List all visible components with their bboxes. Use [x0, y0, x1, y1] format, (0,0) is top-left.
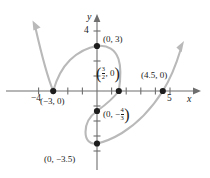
label-close-paren: ): [115, 68, 120, 81]
y-tick-label-4: 4: [84, 26, 89, 36]
label-close-paren-frac: ): [124, 109, 129, 122]
fraction-numerator: 4: [121, 107, 124, 114]
point-x-intercept-three-halves: [116, 88, 122, 94]
fraction-denominator: 3: [121, 114, 124, 122]
point-y-intercept-neg3point5: [94, 140, 100, 146]
y-axis-label: y: [87, 12, 91, 22]
y-axis-arrow-icon: [94, 14, 101, 22]
fraction-four-thirds: 4 3: [121, 107, 124, 122]
point-y-intercept-3: [94, 43, 100, 49]
fraction-numerator: 3: [102, 66, 105, 73]
plot-canvas: [0, 0, 210, 178]
label-point-0-neg3point5: (0, −3.5): [44, 155, 75, 164]
x-axis-arrow-icon: [193, 88, 201, 95]
label-open-paren: (: [96, 68, 101, 81]
label-point-4point5-0: (4.5, 0): [141, 71, 167, 80]
x-tick-label-5: 5: [167, 94, 172, 104]
point-y-intercept-neg-four-thirds: [94, 108, 100, 114]
label-point-neg3-0: (−3, 0): [40, 97, 65, 106]
fraction-denominator: 2: [102, 73, 105, 81]
label-point-three-halves-0: ( 3 2 , 0 ): [96, 66, 120, 81]
point-x-intercept-neg3: [50, 88, 56, 94]
point-x-intercept-4point5: [160, 88, 166, 94]
fraction-three-halves: 3 2: [102, 66, 105, 81]
x-axis-label: x: [187, 94, 191, 104]
label-point-0-3: (0, 3): [103, 35, 123, 44]
curve-lower-arrow-icon: [176, 41, 184, 52]
label-open-paren-zero: (0, −: [103, 110, 120, 119]
coordinate-graph-figure: y x 4 −4 5 (0, 3) (−3, 0) ( 3 2 , 0 ) (4…: [0, 0, 210, 178]
label-point-0-neg-four-thirds: (0, − 4 3 ): [103, 107, 130, 122]
label-comma-zero: , 0: [106, 69, 115, 78]
curve-upper-arrow-icon: [33, 21, 41, 31]
